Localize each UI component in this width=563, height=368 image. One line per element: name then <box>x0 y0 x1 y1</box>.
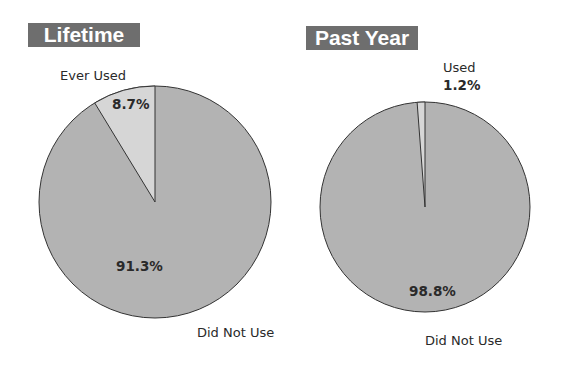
lifetime-pie <box>39 86 271 318</box>
past-year-did-not-use-pct: 98.8% <box>409 283 456 299</box>
past-year-did-not-use-label: Did Not Use <box>425 333 502 348</box>
lifetime-ever-used-pct: 8.7% <box>112 96 149 112</box>
lifetime-did-not-use-label: Did Not Use <box>197 325 274 340</box>
past-year-pie <box>320 102 530 312</box>
lifetime-did-not-use-pct: 91.3% <box>116 258 163 274</box>
past-year-used-pct: 1.2% <box>443 77 480 93</box>
lifetime-ever-used-label: Ever Used <box>60 68 126 83</box>
pie-charts-canvas <box>0 0 563 368</box>
past-year-used-label: Used <box>443 60 476 75</box>
